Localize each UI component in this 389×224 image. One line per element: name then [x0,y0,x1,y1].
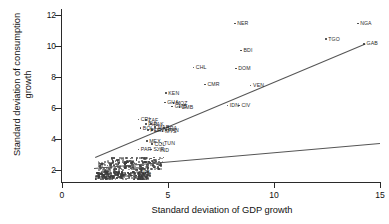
x-tick [62,182,63,188]
point-label: NPL [141,169,151,175]
point-label: GAB [367,40,378,46]
data-point [250,85,252,87]
cluster-point [151,168,153,170]
point-label: BDI [244,47,253,53]
point-label: TUN [164,140,175,146]
point-label: TGO [328,36,340,42]
cluster-point [142,178,144,180]
point-label: VEN [253,82,264,88]
cluster-point [138,161,140,163]
cluster-point [158,168,160,170]
y-tick-label: 8 [0,72,65,82]
cluster-point [139,165,141,167]
point-label: NGA [360,20,372,26]
y-tick-label: 2 [0,165,65,175]
cluster-point [102,163,103,164]
y-tick-label: 4 [0,134,65,144]
point-label: CHL [196,64,207,70]
cluster-point [132,171,134,173]
cluster-point [100,164,101,165]
cluster-point [116,177,118,179]
cluster-point [127,172,128,173]
point-label: DOM [238,65,250,71]
point-label: PAN [168,127,179,133]
cluster-point [117,159,119,161]
point-label: CIV [241,102,250,108]
data-point [138,172,140,174]
cluster-point [128,169,130,171]
point-label: CMR [208,81,220,87]
x-tick [274,182,275,188]
plot-area: NERNGATGOGABBDICHLDOMCMRVENKENGHAMOZGMBZ… [62,9,380,182]
point-label: ZMB [182,104,193,110]
cluster-point [141,157,143,159]
cluster-point [163,157,164,158]
cluster-point [156,168,157,169]
data-point [171,106,173,108]
cluster-point [114,167,115,168]
cluster-point [109,178,111,180]
cluster-point [130,167,132,169]
cluster-point [144,179,145,180]
data-point [151,143,153,145]
x-tick-label: 15 [365,190,389,200]
x-tick-label: 0 [47,190,77,200]
cluster-point [131,157,133,159]
x-tick [168,182,169,188]
data-point [234,23,236,25]
y-tick-label: 12 [0,10,65,20]
scatter-chart: Standard deviation of consumption growth… [0,0,389,224]
cluster-point [128,177,130,179]
data-point [164,102,166,104]
cluster-point [129,173,131,175]
cluster-point [135,178,136,179]
cluster-point [147,178,149,180]
fit-line-steep-fit [95,43,366,157]
data-point [140,127,142,129]
cluster-point [102,178,104,180]
x-axis-line [61,182,381,183]
cluster-point [122,178,124,180]
data-point [204,84,206,86]
cluster-point [149,158,150,159]
y-tick-label: 10 [0,41,65,51]
point-label: PER [150,127,161,133]
data-point [240,50,242,52]
data-point [138,149,140,151]
cluster-point [133,167,134,168]
data-point [357,23,359,25]
x-tick-label: 10 [259,190,289,200]
data-point [146,140,148,142]
cluster-point [136,159,137,160]
data-point [138,119,140,121]
data-point [165,129,167,131]
cluster-point [113,157,115,159]
cluster-point [152,160,153,161]
cluster-point [132,161,134,163]
cluster-point [115,173,117,175]
data-point [325,38,327,40]
cluster-point [127,175,129,177]
data-point [145,119,147,121]
cluster-point [110,173,112,175]
data-point [363,43,365,45]
data-point [227,105,229,107]
point-label: NER [237,20,248,26]
cluster-point [159,157,161,159]
x-tick [380,182,381,188]
cluster-point [144,157,146,159]
x-tick-label: 5 [153,190,183,200]
data-point [165,92,167,94]
data-point [193,67,195,69]
y-tick-label: 6 [0,103,65,113]
cluster-point [146,164,148,166]
cluster-point [128,160,130,162]
x-axis-title: Standard deviation of GDP growth [62,205,382,215]
point-label: IND [160,147,169,153]
data-point [235,68,237,70]
data-point [147,129,149,131]
cluster-point [125,175,127,177]
point-label: KEN [168,90,179,96]
